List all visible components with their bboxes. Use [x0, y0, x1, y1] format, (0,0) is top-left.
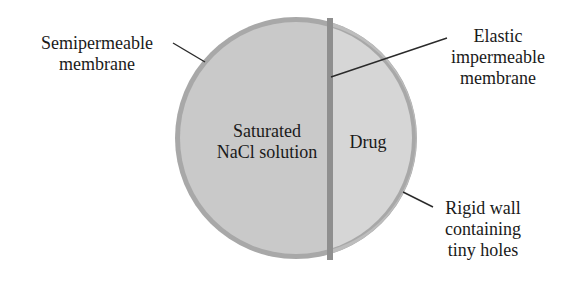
- label-line: membrane: [436, 68, 560, 89]
- label-line: containing: [428, 219, 538, 240]
- label-drug: Drug: [338, 132, 398, 153]
- label-line: Saturated: [202, 121, 332, 142]
- label-elastic-impermeable-membrane: Elastic impermeable membrane: [436, 26, 560, 89]
- label-line: NaCl solution: [202, 142, 332, 163]
- label-line: tiny holes: [428, 240, 538, 261]
- label-semipermeable-membrane: Semipermeable membrane: [22, 33, 172, 75]
- label-line: impermeable: [436, 47, 560, 68]
- label-line: Elastic: [436, 26, 560, 47]
- label-line: membrane: [22, 54, 172, 75]
- label-rigid-wall: Rigid wall containing tiny holes: [428, 198, 538, 261]
- leader-line-semipermeable: [173, 43, 205, 62]
- label-line: Drug: [338, 132, 398, 153]
- label-line: Rigid wall: [428, 198, 538, 219]
- label-saturated-nacl: Saturated NaCl solution: [202, 121, 332, 163]
- label-line: Semipermeable: [22, 33, 172, 54]
